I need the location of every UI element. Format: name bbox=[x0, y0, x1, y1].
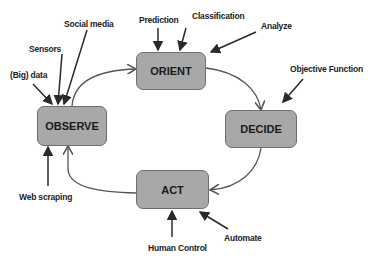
node-observe-label: OBSERVE bbox=[45, 120, 99, 132]
input-analyze: Analyze bbox=[261, 21, 292, 31]
input-social-media: Social media bbox=[64, 19, 114, 29]
ooda-diagram: ORIENT DECIDE ACT OBSERVE (Big) data Sen… bbox=[0, 0, 371, 264]
node-orient-label: ORIENT bbox=[150, 65, 192, 77]
cycle-arrow-orient-decide bbox=[206, 68, 261, 110]
input-sensors: Sensors bbox=[29, 44, 61, 54]
node-observe: OBSERVE bbox=[37, 106, 107, 146]
node-act-label: ACT bbox=[161, 184, 184, 196]
input-objective-function: Objective Function bbox=[290, 64, 363, 74]
node-act: ACT bbox=[136, 170, 209, 209]
input-classification: Classification bbox=[192, 11, 244, 21]
input-prediction: Prediction bbox=[139, 15, 179, 25]
input-web-scraping: Web scraping bbox=[19, 192, 72, 202]
cycle-arrow-act-observe bbox=[68, 146, 136, 193]
node-orient: ORIENT bbox=[136, 52, 206, 90]
node-decide-label: DECIDE bbox=[240, 123, 282, 135]
cycle-arrow-decide-act bbox=[210, 148, 261, 190]
input-human-control: Human Control bbox=[148, 243, 207, 253]
input-automate: Automate bbox=[224, 233, 262, 243]
input-big-data: (Big) data bbox=[10, 70, 47, 80]
cycle-arrow-observe-orient bbox=[72, 69, 136, 106]
node-decide: DECIDE bbox=[225, 110, 297, 148]
